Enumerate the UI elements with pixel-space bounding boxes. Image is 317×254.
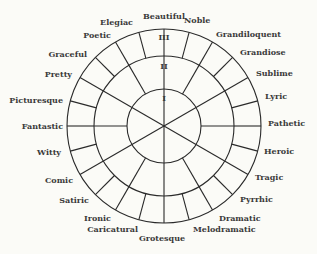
term-label-sublime: Sublime <box>256 68 293 78</box>
outer-spoke <box>232 101 258 108</box>
term-label-witty: Witty <box>36 147 61 157</box>
ring-label-II: II <box>160 61 168 71</box>
inner-spoke <box>164 126 196 145</box>
inner-spoke <box>132 108 164 127</box>
middle-spoke <box>196 91 225 108</box>
outer-spoke <box>139 32 146 58</box>
outer-spoke <box>199 187 213 210</box>
outer-spoke <box>80 161 103 175</box>
term-label-poetic: Poetic <box>83 30 111 40</box>
outer-spoke <box>116 187 130 210</box>
term-label-picturesque: Picturesque <box>9 95 63 105</box>
outer-spoke <box>70 101 96 108</box>
outer-spoke <box>225 78 248 92</box>
term-label-pyrrhic: Pyrrhic <box>240 194 273 204</box>
term-label-graceful: Graceful <box>49 49 88 59</box>
outer-spoke <box>199 42 213 65</box>
outer-spoke <box>116 42 130 65</box>
term-label-fantastic: Fantastic <box>22 121 63 131</box>
middle-spoke <box>129 65 146 94</box>
term-label-grandiloquent: Grandiloquent <box>216 29 281 39</box>
ring-label-III: III <box>158 32 169 42</box>
term-label-satiric: Satiric <box>59 195 89 205</box>
aesthetic-categories-wheel: I II III BeautifulNobleGrandiloquentGran… <box>0 0 317 254</box>
term-label-ironic: Ironic <box>84 213 111 223</box>
inner-spoke <box>132 126 164 145</box>
outer-spoke <box>182 194 189 220</box>
term-label-grandiose: Grandiose <box>240 47 286 57</box>
term-label-pretty: Pretty <box>45 69 73 79</box>
middle-spoke <box>103 91 132 108</box>
term-label-tragic: Tragic <box>255 172 283 182</box>
radial-spokes <box>67 29 261 223</box>
term-label-beautiful: Beautiful <box>143 11 185 21</box>
outer-spoke <box>139 194 146 220</box>
term-label-lyric: Lyric <box>265 91 287 101</box>
term-label-dramatic: Dramatic <box>219 213 261 223</box>
middle-spoke <box>196 145 225 162</box>
outer-spoke <box>213 57 232 76</box>
outer-spoke <box>95 175 114 194</box>
inner-spoke <box>164 108 196 127</box>
term-label-comic: Comic <box>45 175 73 185</box>
term-label-pathetic: Pathetic <box>268 118 305 128</box>
outer-spoke <box>225 161 248 175</box>
outer-spoke <box>182 32 189 58</box>
term-label-noble: Noble <box>184 15 210 25</box>
outer-spoke <box>95 57 114 76</box>
middle-spoke <box>183 158 200 187</box>
term-label-heroic: Heroic <box>264 146 294 156</box>
term-label-elegiac: Elegiac <box>100 17 133 27</box>
term-label-grotesque: Grotesque <box>139 233 185 243</box>
outer-spoke <box>70 144 96 151</box>
middle-spoke <box>103 145 132 162</box>
ring-label-I: I <box>162 93 166 103</box>
term-label-melodramatic: Melodramatic <box>193 224 256 234</box>
outer-spoke <box>213 175 232 194</box>
middle-spoke <box>183 65 200 94</box>
outer-spoke <box>80 78 103 92</box>
middle-spoke <box>129 158 146 187</box>
term-label-caricatural: Caricatural <box>87 224 138 234</box>
outer-spoke <box>232 144 258 151</box>
